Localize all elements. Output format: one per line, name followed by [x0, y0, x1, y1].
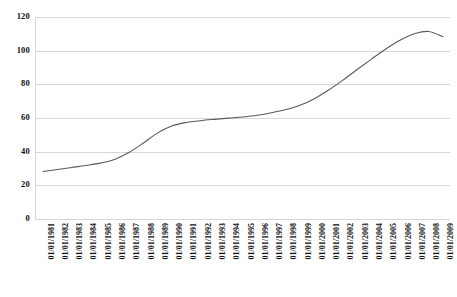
x-tick-label: 01/01/1988 [147, 223, 156, 259]
x-tick-label: 01/01/2004 [375, 223, 384, 259]
x-tick-label: 01/01/1981 [47, 223, 56, 259]
x-tick-label: 01/01/1994 [232, 223, 241, 259]
x-tick-label: 01/01/1982 [61, 223, 70, 259]
x-tick-label: 01/01/2000 [318, 223, 327, 259]
y-tick-label: 40 [0, 147, 30, 156]
x-tick-label: 01/01/1998 [289, 223, 298, 259]
x-tick-label: 01/01/2006 [404, 223, 413, 259]
x-tick-label: 01/01/2005 [389, 223, 398, 259]
x-tick-label: 01/01/2009 [446, 223, 455, 259]
x-tick-label: 01/01/1993 [218, 223, 227, 259]
x-tick-label: 01/01/1991 [189, 223, 198, 259]
y-tick-label: 20 [0, 180, 30, 189]
x-tick-label: 01/01/2002 [346, 223, 355, 259]
x-tick-label: 01/01/2008 [432, 223, 441, 259]
y-tick-label: 60 [0, 113, 30, 122]
x-tick-label: 01/01/1983 [75, 223, 84, 259]
y-tick-label: 0 [0, 214, 30, 223]
x-tick-label: 01/01/1995 [247, 223, 256, 259]
series-line-group [36, 17, 450, 219]
x-axis: 01/01/198101/01/198201/01/198301/01/1984… [36, 221, 450, 297]
x-tick-label: 01/01/1996 [261, 223, 270, 259]
x-tick-label: 01/01/2007 [418, 223, 427, 259]
x-tick-label: 01/01/1985 [104, 223, 113, 259]
x-tick-label: 01/01/2001 [332, 223, 341, 259]
x-tick-label: 01/01/1987 [132, 223, 141, 259]
x-tick-label: 01/01/2003 [361, 223, 370, 259]
line-chart: 020406080100120 01/01/198101/01/198201/0… [0, 0, 457, 297]
x-tick-label: 01/01/1990 [175, 223, 184, 259]
y-tick-label: 80 [0, 79, 30, 88]
x-tick-label: 01/01/1986 [118, 223, 127, 259]
x-tick-label: 01/01/1989 [161, 223, 170, 259]
x-tick-label: 01/01/1997 [275, 223, 284, 259]
series-line [43, 31, 443, 171]
plot-area [36, 17, 450, 219]
y-axis: 020406080100120 [0, 0, 32, 297]
gridline [36, 219, 450, 220]
x-tick-label: 01/01/1992 [204, 223, 213, 259]
x-tick-label: 01/01/1984 [89, 223, 98, 259]
y-tick-label: 100 [0, 46, 30, 55]
x-tick-label: 01/01/1999 [304, 223, 313, 259]
y-tick-label: 120 [0, 12, 30, 21]
